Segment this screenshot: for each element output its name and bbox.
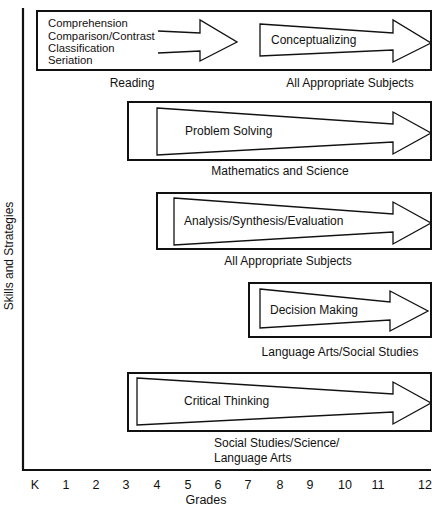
critical-thinking-subject-line1: Social Studies/Science/ — [214, 436, 340, 450]
tick-3: 3 — [123, 478, 130, 492]
x-axis-ticks: K 1 2 3 4 5 6 7 8 9 10 11 12 — [31, 478, 432, 492]
critical-thinking-subject-line2: Language Arts — [214, 451, 291, 465]
tick-k: K — [31, 478, 40, 492]
tick-7: 7 — [245, 478, 252, 492]
tick-8: 8 — [277, 478, 284, 492]
skill-classification: Classification — [48, 42, 115, 54]
row-analysis-synthesis-evaluation: Analysis/Synthesis/Evaluation All Approp… — [157, 193, 431, 268]
skills-diagram: Skills and Strategies K 1 2 3 4 5 6 7 8 … — [0, 0, 446, 511]
row-reading-conceptualizing: Comprehension Comparison/Contrast Classi… — [37, 11, 431, 90]
analysis-subject: All Appropriate Subjects — [224, 254, 351, 268]
x-axis-label: Grades — [186, 493, 227, 507]
problem-solving-label: Problem Solving — [185, 124, 272, 138]
tick-4: 4 — [154, 478, 161, 492]
skill-seriation: Seriation — [48, 54, 93, 66]
row-decision-making: Decision Making Language Arts/Social Stu… — [249, 283, 431, 359]
analysis-label: Analysis/Synthesis/Evaluation — [184, 214, 343, 228]
skill-comparison-contrast: Comparison/Contrast — [48, 30, 156, 42]
tick-12: 12 — [418, 478, 432, 492]
tick-10: 10 — [338, 478, 352, 492]
decision-making-label: Decision Making — [270, 303, 358, 317]
row-critical-thinking: Critical Thinking Social Studies/Science… — [128, 373, 431, 465]
y-axis-label: Skills and Strategies — [2, 202, 16, 311]
reading-subject: Reading — [110, 76, 155, 90]
tick-5: 5 — [185, 478, 192, 492]
row-problem-solving: Problem Solving Mathematics and Science — [128, 102, 431, 178]
tick-2: 2 — [93, 478, 100, 492]
tick-11: 11 — [372, 478, 385, 492]
tick-6: 6 — [215, 478, 222, 492]
skill-comprehension: Comprehension — [48, 17, 128, 29]
conceptualizing-label: Conceptualizing — [271, 33, 356, 47]
problem-solving-subject: Mathematics and Science — [211, 164, 349, 178]
conceptualizing-subject: All Appropriate Subjects — [286, 76, 413, 90]
decision-making-subject: Language Arts/Social Studies — [262, 345, 419, 359]
critical-thinking-label: Critical Thinking — [184, 394, 269, 408]
tick-1: 1 — [63, 478, 70, 492]
tick-9: 9 — [307, 478, 314, 492]
